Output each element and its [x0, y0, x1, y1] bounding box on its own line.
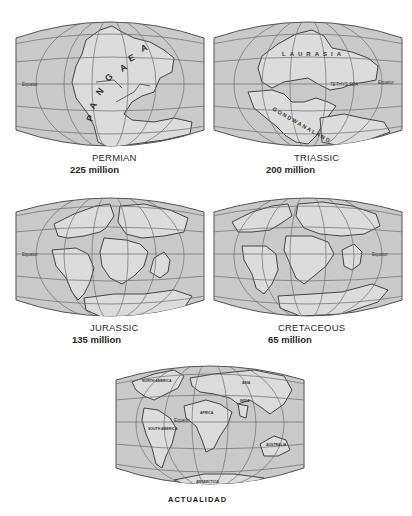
period-title: JURASSIC — [90, 322, 139, 333]
label-antarctica: ANTARCTICA — [196, 480, 219, 484]
panel-permian: Equator P A N G A E A PERMIAN 225 millio… — [0, 0, 206, 180]
period-title: TRIASSIC — [294, 152, 339, 163]
panel-jurassic: Equator JURASSIC 135 million — [0, 180, 206, 360]
period-title: CRETACEOUS — [278, 322, 345, 333]
map-jurassic: Equator — [14, 196, 206, 320]
period-age: 135 million — [72, 334, 121, 345]
equator-label: Equator — [22, 82, 38, 87]
equator-label: Equator — [378, 80, 394, 85]
panel-triassic: Equator LAURASIA GONDWANALAND TETHYS SEA… — [206, 0, 412, 180]
label-north-america: NORTH AMERICA — [142, 379, 172, 383]
panel-cretaceous: Equator CRETACEOUS 65 million — [206, 180, 412, 360]
period-title: ACTUALIDAD — [168, 495, 227, 504]
equator-label: Equator — [174, 418, 190, 423]
label-south-america: SOUTH AMERICA — [148, 427, 178, 431]
label-india: INDIA — [240, 399, 250, 403]
map-cretaceous: Equator — [212, 196, 404, 320]
period-age: 65 million — [268, 334, 312, 345]
panel-actualidad: Equator NORTH AMERICA SOUTH AMERICA AFRI… — [100, 360, 320, 516]
map-actualidad: Equator NORTH AMERICA SOUTH AMERICA AFRI… — [114, 364, 306, 488]
map-triassic: Equator LAURASIA GONDWANALAND TETHYS SEA — [212, 18, 404, 150]
label-africa: AFRICA — [200, 411, 214, 415]
label-tethys-sea: TETHYS SEA — [330, 82, 358, 87]
label-australia: AUSTRALIA — [266, 443, 287, 447]
period-age: 225 million — [70, 164, 119, 175]
equator-label: Equator — [372, 252, 388, 257]
map-permian: Equator P A N G A E A — [14, 18, 206, 150]
label-asia: ASIA — [242, 381, 251, 385]
label-laurasia: LAURASIA — [282, 51, 345, 57]
period-age: 200 million — [266, 164, 315, 175]
period-title: PERMIAN — [92, 152, 137, 163]
equator-label: Equator — [22, 252, 38, 257]
